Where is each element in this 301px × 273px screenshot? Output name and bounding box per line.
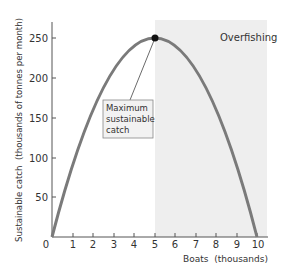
x-tick-3: 3 <box>111 239 117 250</box>
overfishing-region <box>155 20 267 237</box>
x-tick-0: 0 <box>43 239 49 250</box>
x-tick-10: 10 <box>252 239 265 250</box>
y-tick-50: 50 <box>35 192 48 203</box>
overfishing-label: Overfishing <box>220 32 277 43</box>
y-axis-title: Sustainable catch (thousands of tonnes p… <box>14 18 24 242</box>
y-tick-250: 250 <box>29 33 48 44</box>
callout-line-1: Maximum <box>106 103 148 113</box>
x-tick-5: 5 <box>152 239 158 250</box>
x-tick-1: 1 <box>70 239 76 250</box>
max-sustainable-catch-point <box>152 35 159 42</box>
y-tick-150: 150 <box>29 113 48 124</box>
x-tick-6: 6 <box>172 239 178 250</box>
max-sustainable-catch-callout: Maximum sustainable catch <box>103 100 155 138</box>
x-tick-labels: 0 1 2 3 4 5 6 7 8 9 10 <box>43 239 265 250</box>
x-tick-7: 7 <box>193 239 199 250</box>
sustainable-catch-chart: 250 200 150 100 50 0 1 2 3 4 5 6 <box>0 0 301 273</box>
y-tick-100: 100 <box>29 153 48 164</box>
x-tick-8: 8 <box>213 239 219 250</box>
x-tick-2: 2 <box>90 239 96 250</box>
y-tick-200: 200 <box>29 73 48 84</box>
x-tick-9: 9 <box>234 239 240 250</box>
x-tick-4: 4 <box>131 239 137 250</box>
x-axis-title: Boats (thousands) <box>183 254 268 264</box>
y-ticks <box>52 38 56 197</box>
callout-line-2: sustainable <box>106 114 155 124</box>
y-tick-labels: 250 200 150 100 50 <box>29 33 48 203</box>
callout-line-3: catch <box>106 125 129 135</box>
